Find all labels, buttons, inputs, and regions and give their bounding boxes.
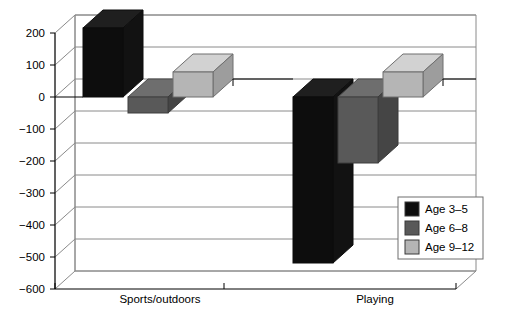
legend-label-age9-12: Age 9–12 (425, 241, 474, 253)
legend-label-age3-5: Age 3–5 (425, 203, 468, 215)
x-tick-label-sports: Sports/outdoors (119, 293, 200, 305)
legend: Age 3–5 Age 6–8 Age 9–12 (398, 197, 483, 259)
legend-swatch-age9-12 (405, 240, 419, 254)
y-tick-label: −400 (19, 219, 45, 231)
y-tick-label: −300 (19, 187, 45, 199)
legend-label-age6-8: Age 6–8 (425, 222, 468, 234)
y-tick-label: −200 (19, 155, 45, 167)
legend-item-age6-8[interactable]: Age 6–8 (405, 221, 468, 235)
bar-sports-age3-5 (83, 10, 143, 97)
legend-item-age3-5[interactable]: Age 3–5 (405, 202, 468, 216)
y-tick-label: 200 (26, 27, 45, 39)
chart-container: 200 100 0 −100 −200 −300 −400 −500 −600 (0, 0, 510, 325)
y-tick-label: −100 (19, 123, 45, 135)
y-tick-label: 0 (39, 91, 45, 103)
legend-swatch-age3-5 (405, 202, 419, 216)
y-tick-label: −600 (19, 283, 45, 295)
bar-chart-svg: 200 100 0 −100 −200 −300 −400 −500 −600 (0, 0, 510, 325)
y-tick-label: 100 (26, 59, 45, 71)
y-tick-label: −500 (19, 251, 45, 263)
chart-background (0, 0, 510, 325)
x-tick-label-playing: Playing (356, 293, 394, 305)
legend-swatch-age6-8 (405, 221, 419, 235)
legend-item-age9-12[interactable]: Age 9–12 (405, 240, 474, 254)
